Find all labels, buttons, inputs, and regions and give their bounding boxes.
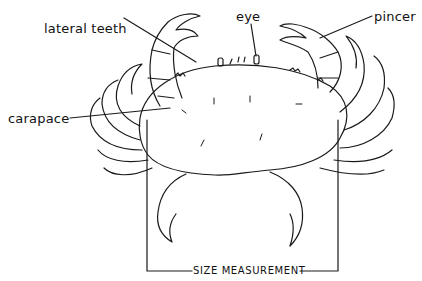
right-legs	[320, 36, 394, 174]
crab-diagram: lateral teeth eye pincer carapace SIZE M…	[0, 0, 422, 281]
label-eye: eye	[236, 10, 260, 23]
front-spines	[230, 57, 245, 64]
lateral-teeth-shape	[175, 68, 323, 81]
crab-drawing	[0, 0, 422, 281]
lateral-teeth-leader	[124, 18, 196, 62]
carapace-shape	[139, 65, 347, 175]
left-legs	[90, 64, 152, 175]
eye-leader	[251, 24, 256, 56]
left-back-leg	[158, 174, 186, 242]
eye-left	[218, 58, 223, 66]
right-back-leg	[270, 172, 303, 246]
pincer-leader	[320, 16, 372, 38]
label-carapace: carapace	[8, 112, 69, 125]
label-size-measurement: SIZE MEASUREMENT	[193, 266, 306, 276]
size-measurement-bracket	[147, 120, 338, 271]
eye-right	[254, 55, 259, 64]
right-pincer-segments	[318, 52, 338, 78]
carapace-markings	[182, 96, 302, 146]
label-pincer: pincer	[374, 10, 416, 23]
label-lateral-teeth: lateral teeth	[44, 22, 127, 35]
left-pincer-segments	[148, 50, 174, 98]
right-pincer	[280, 24, 341, 92]
